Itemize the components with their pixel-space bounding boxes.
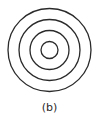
ring-circle-3 bbox=[30, 31, 69, 70]
ring-circle-2 bbox=[19, 20, 80, 81]
ring-circle-1 bbox=[8, 9, 91, 92]
ring-circle-4 bbox=[41, 42, 58, 59]
concentric-rings bbox=[8, 9, 91, 92]
concentric-circles-figure: (b) bbox=[0, 0, 100, 118]
figure-caption: (b) bbox=[42, 101, 58, 114]
